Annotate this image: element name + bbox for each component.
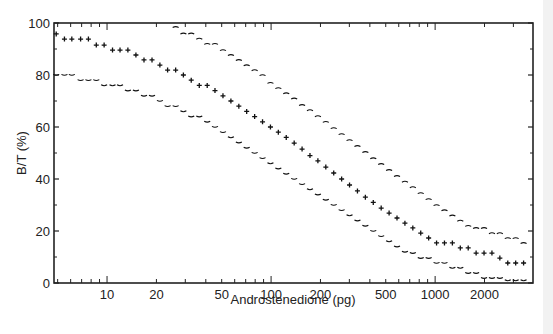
x-tick-label: 1000 (421, 287, 450, 302)
plot-frame (54, 23, 533, 283)
lower-limit-series (53, 74, 526, 280)
y-axis: 020406080100 (28, 16, 533, 291)
data-series (53, 27, 526, 281)
x-tick-label: 500 (375, 287, 397, 302)
y-axis-label: B/T (%) (14, 131, 29, 175)
y-tick-label: 40 (36, 172, 50, 187)
chart: 020406080100 10205010020050010002000 And… (0, 0, 553, 334)
y-tick-label: 20 (36, 224, 50, 239)
page-edge (543, 0, 553, 334)
x-tick-label: 20 (149, 287, 163, 302)
y-tick-label: 80 (36, 68, 50, 83)
x-axis-label: Androstenedione (pg) (230, 292, 355, 307)
y-tick-label: 100 (28, 16, 50, 31)
y-tick-label: 60 (36, 120, 50, 135)
x-axis: 10205010020050010002000 (58, 23, 514, 302)
x-tick-label: 10 (100, 287, 114, 302)
y-tick-label: 0 (43, 276, 50, 291)
x-tick-label: 50 (214, 287, 228, 302)
x-tick-label: 2000 (470, 287, 499, 302)
mean-series (54, 31, 526, 265)
upper-limit-series (173, 27, 527, 244)
